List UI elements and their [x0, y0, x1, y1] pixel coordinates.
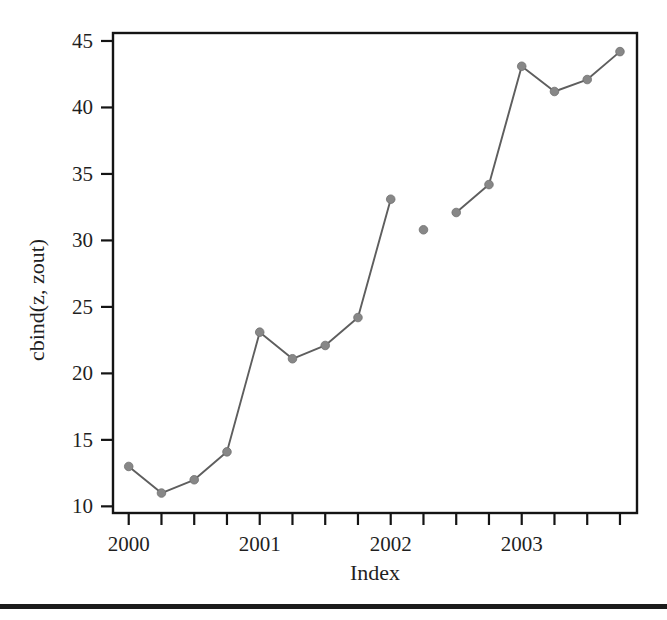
data-point: [223, 448, 232, 457]
data-point: [616, 47, 625, 56]
x-axis-title: Index: [350, 560, 400, 585]
data-point: [485, 180, 494, 189]
data-point: [550, 87, 559, 96]
data-series-group: [124, 47, 624, 497]
data-point: [124, 462, 133, 471]
data-point: [419, 225, 428, 234]
data-point: [157, 489, 166, 498]
y-tick-label: 15: [72, 428, 93, 452]
data-point: [321, 341, 330, 350]
series-line: [129, 199, 391, 493]
y-tick-label: 10: [72, 494, 93, 518]
x-tick-label: 2000: [108, 532, 150, 556]
scan-edge-rule: [0, 604, 667, 609]
data-point: [255, 328, 264, 337]
data-point: [517, 62, 526, 71]
y-tick-label: 30: [72, 228, 93, 252]
y-tick-label: 40: [72, 95, 93, 119]
y-tick-label: 20: [72, 361, 93, 385]
plot-frame: [113, 33, 637, 513]
data-point: [354, 313, 363, 322]
data-point: [288, 354, 297, 363]
y-axis: 1015202530354045: [72, 29, 113, 518]
y-tick-label: 25: [72, 295, 93, 319]
plot-canvas: 1015202530354045 2000200120022003 cbind(…: [0, 0, 667, 620]
data-point: [386, 195, 395, 204]
y-axis-title: cbind(z, zout): [24, 239, 49, 361]
y-tick-label: 35: [72, 162, 93, 186]
data-point: [452, 208, 461, 217]
y-tick-label: 45: [72, 29, 93, 53]
x-tick-label: 2002: [370, 532, 412, 556]
x-tick-label: 2001: [239, 532, 281, 556]
chart-figure: 1015202530354045 2000200120022003 cbind(…: [0, 0, 667, 620]
data-point: [583, 75, 592, 84]
series-line: [456, 52, 620, 213]
x-tick-label: 2003: [501, 532, 543, 556]
x-axis: 2000200120022003: [108, 513, 620, 556]
data-point: [190, 475, 199, 484]
